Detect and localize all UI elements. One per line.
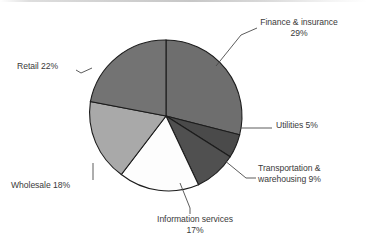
pie-label-wholesale: Wholesale 18% xyxy=(11,180,103,191)
leader-line-transportation-warehousing xyxy=(224,160,256,178)
pie-label-transportation-warehousing: Transportation & warehousing 9% xyxy=(258,163,364,184)
pie-label-finance-insurance: Finance & insurance 29% xyxy=(243,17,355,38)
pie-chart-figure: Finance & insurance 29% Utilities 5% Tra… xyxy=(0,0,367,251)
pie-label-information-services: Information services 17% xyxy=(142,214,248,235)
pie-label-utilities: Utilities 5% xyxy=(276,120,362,131)
pie-label-retail: Retail 22% xyxy=(17,61,91,72)
